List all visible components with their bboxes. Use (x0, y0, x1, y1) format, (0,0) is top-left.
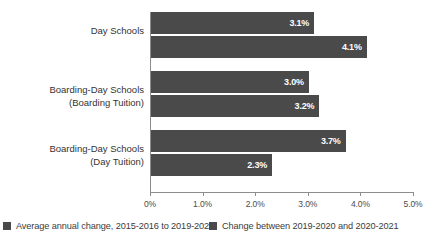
x-tick-mark-1 (203, 192, 204, 196)
chart-legend: Average annual change, 2015-2016 to 2019… (3, 219, 435, 233)
category-label-day-schools: Day Schools (91, 25, 144, 38)
x-tick-mark-0 (150, 192, 151, 196)
legend-item-label: Average annual change, 2015-2016 to 2019… (16, 221, 214, 231)
x-tick-label-0: 0% (144, 199, 156, 209)
legend-item-average-annual-change[interactable]: Average annual change, 2015-2016 to 2019… (3, 219, 214, 233)
bar-value-label: 2.3% (247, 154, 267, 176)
legend-item-change-between-years[interactable]: Change between 2019-2020 and 2020-2021 (209, 219, 399, 233)
bar-day-tuition-avg-annual-change[interactable]: 3.7% (151, 130, 346, 152)
x-tick-label-5: 5.0% (404, 199, 423, 209)
bar-chart: Day Schools Boarding-Day Schools (Boardi… (0, 0, 438, 236)
category-label-line: Boarding-Day Schools (49, 143, 144, 156)
x-tick-mark-2 (255, 192, 256, 196)
x-tick-label-3: 3.0% (298, 199, 317, 209)
bar-day-tuition-change-2019-2021[interactable]: 2.3% (151, 154, 272, 176)
category-label-line: (Boarding Tuition) (49, 97, 144, 110)
bar-value-label: 3.1% (289, 12, 309, 34)
category-label-line: Day Schools (91, 25, 144, 38)
category-label-line: (Day Tuition) (49, 156, 144, 169)
bar-value-label: 4.1% (342, 36, 362, 58)
x-axis-line (150, 192, 413, 193)
bar-day-schools-avg-annual-change[interactable]: 3.1% (151, 12, 314, 34)
plot-area: 0% 1.0% 2.0% 3.0% 4.0% 5.0% 3.1% 4.1% 3.… (150, 12, 413, 192)
bar-boarding-tuition-change-2019-2021[interactable]: 3.2% (151, 95, 319, 117)
x-tick-label-1: 1.0% (193, 199, 212, 209)
legend-swatch-icon (3, 222, 11, 230)
bar-boarding-tuition-avg-annual-change[interactable]: 3.0% (151, 71, 309, 93)
legend-item-label: Change between 2019-2020 and 2020-2021 (222, 221, 399, 231)
x-tick-label-2: 2.0% (246, 199, 265, 209)
x-tick-mark-5 (413, 192, 414, 196)
category-label-boarding-day-day-tuition: Boarding-Day Schools (Day Tuition) (49, 143, 144, 168)
bar-value-label: 3.7% (321, 130, 341, 152)
bar-day-schools-change-2019-2021[interactable]: 4.1% (151, 36, 367, 58)
x-tick-mark-3 (308, 192, 309, 196)
category-label-line: Boarding-Day Schools (49, 84, 144, 97)
bar-value-label: 3.2% (295, 95, 315, 117)
bar-value-label: 3.0% (284, 71, 304, 93)
legend-swatch-icon (209, 222, 217, 230)
x-tick-mark-4 (360, 192, 361, 196)
x-tick-label-4: 4.0% (351, 199, 370, 209)
category-label-boarding-day-boarding-tuition: Boarding-Day Schools (Boarding Tuition) (49, 84, 144, 109)
